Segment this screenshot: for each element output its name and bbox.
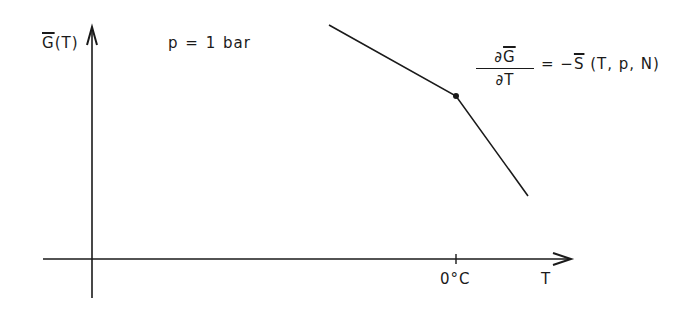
fraction-numerator: ∂G bbox=[476, 48, 534, 69]
equals-minus: = − bbox=[541, 55, 574, 73]
x-axis-label: T bbox=[541, 272, 551, 287]
tick-label-zero-celsius: 0°C bbox=[440, 272, 471, 287]
derivative-fraction: ∂G ∂T bbox=[476, 48, 534, 89]
y-axis-label-arg: (T) bbox=[55, 34, 79, 52]
fraction-numerator-G: G bbox=[503, 48, 516, 66]
y-axis-label: G(T) bbox=[42, 36, 79, 51]
kink-point-marker bbox=[453, 93, 459, 99]
entropy-S: S bbox=[574, 55, 585, 73]
chart-canvas bbox=[0, 0, 673, 316]
entropy-args: (T, p, N) bbox=[584, 55, 659, 73]
y-axis-label-G: G bbox=[42, 34, 55, 52]
entropy-equation: = −S (T, p, N) bbox=[541, 57, 660, 72]
partial-symbol: ∂ bbox=[494, 48, 503, 66]
fraction-denominator: ∂T bbox=[476, 69, 534, 89]
pressure-label: p = 1 bar bbox=[168, 36, 251, 51]
